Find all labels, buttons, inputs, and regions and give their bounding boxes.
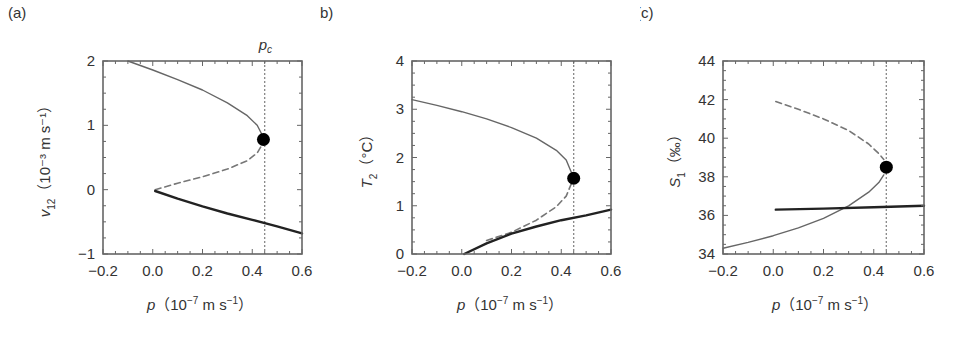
unstable-branch-line [487, 184, 572, 241]
x-axis-label: p（10−7 m s−1） [456, 295, 563, 313]
panel-label: (a) [8, 4, 26, 21]
axes-frame [412, 61, 611, 254]
x-tick-label: −0.2 [88, 262, 118, 279]
x-tick-label: 0.4 [551, 262, 572, 279]
y-tick-label: 1 [87, 116, 95, 133]
y-axis-label: v12（10⁻³ m s⁻¹） [36, 98, 57, 218]
x-tick-label: 0.4 [863, 262, 884, 279]
x-tick-label: 0.6 [601, 262, 622, 279]
bifurcation-point [257, 133, 270, 146]
panel-b: (b)−0.20.00.20.40.601234p（10−7 m s−1）T2（… [320, 0, 640, 339]
y-tick-label: 44 [698, 52, 715, 69]
y-tick-label: 0 [87, 181, 95, 198]
x-tick-label: 0.0 [451, 262, 472, 279]
lower-stable-branch-line [464, 210, 611, 254]
y-tick-label: 2 [396, 149, 404, 166]
x-tick-label: 0.2 [501, 262, 522, 279]
x-axis-label: p（10−7 m s−1） [146, 295, 253, 313]
axes-frame [723, 61, 924, 254]
x-tick-label: 0.6 [914, 262, 935, 279]
x-tick-label: 0.4 [242, 262, 263, 279]
bifurcation-point [567, 172, 580, 185]
lower-stable-branch-line [155, 191, 302, 233]
upper-stable-branch-line [412, 100, 571, 172]
y-axis-label: T2（°C） [358, 127, 379, 189]
y-tick-label: 40 [698, 129, 715, 146]
chart-a: (a)−0.20.00.20.40.6−1012p（10−7 m s−1）v12… [0, 0, 320, 339]
x-tick-label: 0.2 [192, 262, 213, 279]
x-tick-label: 0.0 [763, 262, 784, 279]
critical-p-label: pc [258, 36, 272, 55]
lower-stable-branch-line [776, 206, 924, 210]
x-tick-label: −0.2 [708, 262, 738, 279]
bifurcation-point [880, 161, 893, 174]
x-tick-label: 0.6 [292, 262, 313, 279]
y-tick-label: 1 [396, 197, 404, 214]
chart-c: (c)−0.20.00.20.40.6343638404244p（10−7 m … [640, 0, 967, 339]
x-axis-label: p（10−7 m s−1） [771, 295, 878, 313]
y-tick-label: 34 [698, 245, 715, 262]
y-tick-label: 38 [698, 168, 715, 185]
y-tick-label: −1 [78, 245, 95, 262]
unstable-branch-line [155, 145, 262, 190]
chart-b: (b)−0.20.00.20.40.601234p（10−7 m s−1）T2（… [320, 0, 640, 339]
x-tick-label: 0.2 [813, 262, 834, 279]
unstable-branch-line [776, 102, 884, 160]
y-tick-label: 3 [396, 100, 404, 117]
y-tick-label: 2 [87, 52, 95, 69]
y-tick-label: 0 [396, 245, 404, 262]
panel-label: (b) [320, 4, 333, 21]
x-tick-label: −0.2 [397, 262, 427, 279]
y-tick-label: 36 [698, 206, 715, 223]
panel-label: (c) [640, 4, 654, 21]
stable-branch-line [723, 175, 884, 248]
panel-c: (c)−0.20.00.20.40.6343638404244p（10−7 m … [640, 0, 967, 339]
y-tick-label: 4 [396, 52, 404, 69]
x-tick-label: 0.0 [142, 262, 163, 279]
upper-stable-branch-line [128, 61, 262, 135]
y-tick-label: 42 [698, 91, 715, 108]
panel-a: (a)−0.20.00.20.40.6−1012p（10−7 m s−1）v12… [0, 0, 320, 339]
y-axis-label: S1（‰） [666, 127, 687, 188]
